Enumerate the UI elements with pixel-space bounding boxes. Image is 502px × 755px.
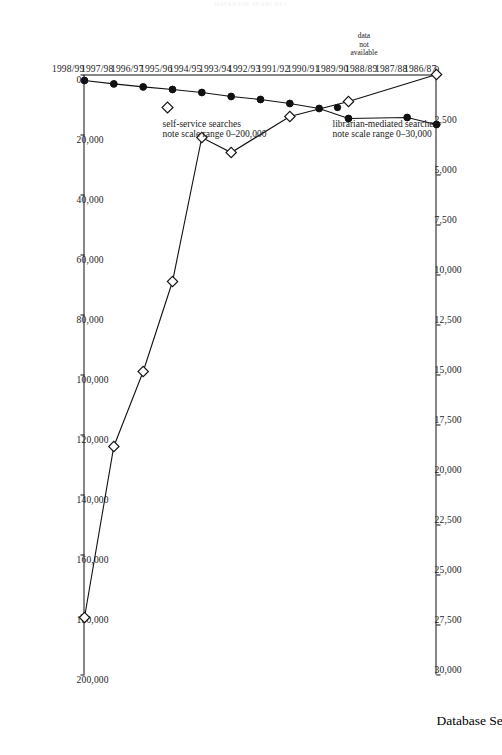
series-line-2 (84, 74, 436, 617)
tick-label-top: 7,500 (434, 214, 456, 224)
marker-filled-circle (257, 96, 264, 103)
marker-open-diamond (225, 147, 235, 157)
category-label: 1988/89 (345, 63, 378, 73)
marker-filled-circle (227, 93, 234, 100)
tick-label-top: 12,500 (434, 314, 461, 324)
legend-item-1: librarian-mediated searchesnote scale ra… (332, 118, 437, 138)
legend-label: librarian-mediated searches (332, 118, 437, 128)
tick-label-top: 10,000 (434, 264, 461, 274)
legend-label: self-service searches (162, 118, 266, 128)
category-label: 1993/94 (198, 63, 231, 73)
tick-label-bottom: 200,000 (76, 674, 108, 684)
legend-filled-circle-icon (334, 104, 340, 110)
category-label: 1990/91 (286, 63, 319, 73)
marker-open-diamond (167, 276, 177, 286)
page-canvas: DATABASE SEARCHES Database Searches: Lib… (0, 0, 502, 755)
tick-label-top: 20,000 (434, 464, 461, 474)
category-label: 1995/96 (139, 63, 172, 73)
tick-label-top: 27,500 (434, 614, 461, 624)
legend-marker-1 (330, 100, 344, 114)
marker-open-diamond (108, 441, 118, 451)
marker-filled-circle (198, 89, 205, 96)
legend-note: note scale range 0–30,000 (332, 128, 437, 138)
tick-label-bottom: 0 (76, 74, 81, 84)
category-label: 1987/88 (374, 63, 407, 73)
legend-marker-2 (160, 100, 174, 114)
category-label: 1996/97 (110, 63, 143, 73)
data-not-available-note: datanotavailable (350, 31, 377, 57)
marker-filled-circle (169, 86, 176, 93)
marker-filled-circle (139, 83, 146, 90)
category-label: 1998/99 (51, 63, 84, 73)
tick-label-top: 5,000 (434, 164, 456, 174)
tick-label-top: 25,000 (434, 564, 461, 574)
series-layer (84, 74, 436, 674)
legend-item-2: self-service searchesnote scale range 0–… (162, 118, 266, 138)
marker-filled-circle (286, 100, 293, 107)
plot-area: 02,5005,0007,50010,00012,50015,00017,500… (84, 74, 436, 674)
category-label: 1989/90 (315, 63, 348, 73)
legend-open-diamond-icon (162, 102, 173, 113)
tick-label-top: 17,500 (434, 414, 461, 424)
tick-label-top: 22,500 (434, 514, 461, 524)
marker-open-diamond (137, 366, 147, 376)
marker-filled-circle (110, 80, 117, 87)
tick-label-top: 15,000 (434, 364, 461, 374)
marker-filled-circle (81, 77, 88, 84)
category-label: 1992/93 (227, 63, 260, 73)
category-label: 1991/92 (257, 63, 290, 73)
rotated-figure: Database Searches: Librarian-Mediated vs… (0, 0, 502, 755)
category-label: 1986/87 (403, 63, 436, 73)
category-label: 1994/95 (169, 63, 202, 73)
tick-label-top: 30,000 (434, 664, 461, 674)
chart-title: Database Searches: Librarian-Mediated vs… (436, 712, 502, 728)
category-label: 1997/98 (81, 63, 114, 73)
legend-note: note scale range 0–200,000 (162, 128, 266, 138)
